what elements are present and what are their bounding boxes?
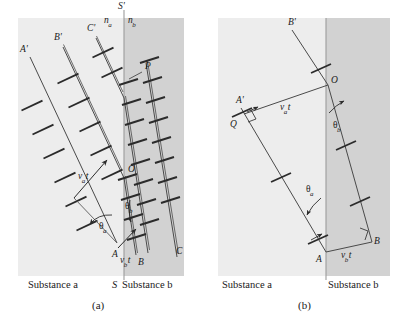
caption-panel-a: (a) [92,300,104,311]
label-ray-B-prime: B' [54,33,62,43]
panel-a: S' na nb A' B' C' P O A B C vat vbt θa θ… [0,0,200,318]
label-point-O-a: O [128,165,135,175]
label-va-t-a: vat [78,172,88,184]
label-vb-t-a: vbt [120,256,130,268]
label-point-A-b: A [316,255,322,265]
label-substance-a-left: Substance a [28,280,78,291]
label-va-t-b: vat [280,103,290,115]
substance-b-region-b [326,18,390,276]
label-ray-A-prime-b: A' [236,96,244,106]
panel-b-graphics [200,0,413,318]
caption-panel-b: (b) [298,300,311,311]
label-theta-a-b: θa [306,185,314,197]
label-point-C-a: C [176,247,182,257]
label-ray-B-prime-b: B' [288,18,296,28]
label-theta-b-a: θb [125,202,133,214]
label-substance-b-right-b: Substance b [328,280,378,291]
label-ray-A-prime: A' [20,45,28,55]
label-point-Q-b: Q [230,120,237,130]
label-n-a: na [104,16,112,28]
label-s-bottom-a: S [112,280,117,291]
label-point-B-b: B [374,237,380,247]
label-theta-b-b: θb [333,121,341,133]
label-point-P: P [145,62,151,72]
refraction-figure: S' na nb A' B' C' P O A B C vat vbt θa θ… [0,0,413,318]
label-point-B-a: B [138,258,144,268]
label-point-O-b: O [331,76,338,86]
label-n-b: nb [128,16,136,28]
label-substance-a-left-b: Substance a [222,280,272,291]
panel-a-graphics [0,0,200,318]
label-point-A-a: A [112,250,118,260]
label-substance-b-right: Substance b [122,280,172,291]
label-theta-a-a: θa [99,222,107,234]
panel-b: B' A' Q O A B vat vbt θb θa Substance a … [200,0,413,318]
label-vb-t-b: vbt [341,251,351,263]
label-s-prime-a: S' [118,2,125,12]
label-ray-C-prime: C' [87,24,95,34]
